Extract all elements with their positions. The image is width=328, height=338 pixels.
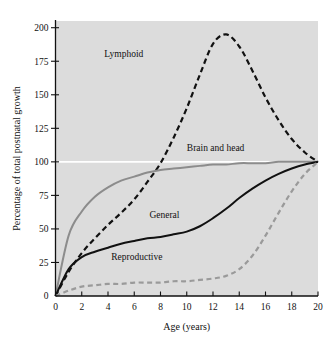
- growth-curves-figure: 02468101214161820 2550751001251501752000…: [0, 0, 328, 338]
- series-label-brain-and-head: Brain and head: [187, 143, 245, 153]
- x-axis-title: Age (years): [163, 321, 210, 333]
- x-tick-label: 18: [287, 302, 297, 312]
- x-tick-label: 4: [106, 302, 111, 312]
- x-tick-label: 12: [208, 302, 218, 312]
- x-tick-label: 16: [261, 302, 271, 312]
- x-tick-label: 14: [235, 302, 245, 312]
- series-label-reproductive: Reproductive: [111, 252, 162, 262]
- y-tick-label: 50: [39, 224, 49, 234]
- x-tick-label: 0: [53, 302, 58, 312]
- x-tick-label: 20: [313, 302, 323, 312]
- scammon-growth-chart: 02468101214161820 2550751001251501752000…: [0, 0, 328, 338]
- x-tick-label: 10: [182, 302, 192, 312]
- y-tick-label-zero: 0: [44, 291, 49, 301]
- y-tick-label: 125: [34, 124, 49, 134]
- x-tick-label: 2: [79, 302, 84, 312]
- y-tick-label: 200: [34, 23, 49, 33]
- series-label-general: General: [149, 210, 179, 220]
- y-axis-title: Percentage of total postnatal growth: [11, 86, 22, 230]
- y-tick-label: 100: [34, 157, 49, 167]
- y-tick-label: 175: [34, 57, 49, 67]
- series-label-lymphoid: Lymphoid: [104, 49, 143, 59]
- plot-area-background: [56, 21, 319, 296]
- y-tick-label: 25: [39, 258, 49, 268]
- x-tick-label: 6: [132, 302, 137, 312]
- y-tick-label: 75: [39, 191, 49, 201]
- x-tick-label: 8: [158, 302, 163, 312]
- y-tick-label: 150: [34, 90, 49, 100]
